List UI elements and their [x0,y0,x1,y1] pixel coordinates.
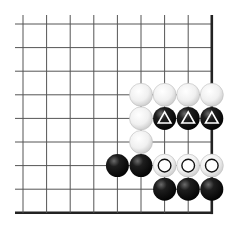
black-stone [153,107,176,130]
white-stone [153,154,176,177]
black-stone [200,107,223,130]
white-stone [130,131,153,154]
black-stone-body [106,154,129,177]
white-stone [200,154,223,177]
circle-mark-icon [182,159,195,172]
white-stone [153,83,176,106]
black-stone-body [153,178,176,201]
black-stone [106,154,129,177]
white-stone [130,83,153,106]
white-stone-body [177,83,200,106]
white-stone [200,83,223,106]
white-stone [177,83,200,106]
circle-mark-icon [205,159,218,172]
black-stone-body [130,154,153,177]
white-stone-body [130,107,153,130]
white-stone-body [130,131,153,154]
black-stone [153,178,176,201]
white-stone-body [153,83,176,106]
white-stone-body [200,83,223,106]
go-board [0,0,237,241]
white-stone [177,154,200,177]
black-stone [177,178,200,201]
white-stone [130,107,153,130]
black-stone [177,107,200,130]
white-stone-body [130,83,153,106]
black-stone-body [177,178,200,201]
black-stone [200,178,223,201]
circle-mark-icon [158,159,171,172]
black-stone-body [200,178,223,201]
black-stone [130,154,153,177]
